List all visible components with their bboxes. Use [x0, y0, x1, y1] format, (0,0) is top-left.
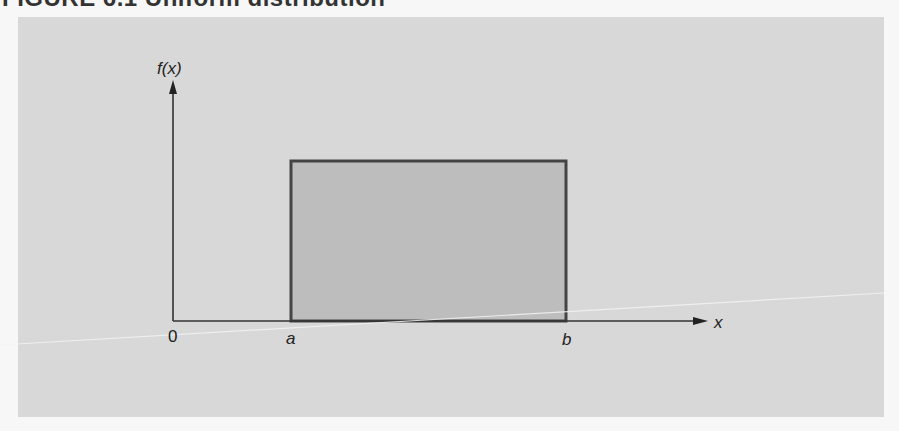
- y-axis-label: f(x): [157, 59, 182, 78]
- x-axis-arrow-icon: [693, 317, 708, 325]
- lower-bound-label: a: [286, 329, 295, 348]
- origin-label: 0: [168, 327, 177, 346]
- uniform-distribution-diagram: f(x) x 0 a b: [0, 0, 899, 431]
- y-axis-arrow-icon: [169, 80, 177, 94]
- x-axis-label: x: [713, 313, 723, 332]
- uniform-density-rectangle: [291, 161, 566, 321]
- upper-bound-label: b: [562, 330, 571, 349]
